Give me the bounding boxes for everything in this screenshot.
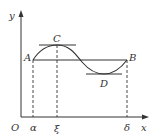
tick-xi-label: ξ [54,123,60,134]
y-axis-arrow-icon [19,10,24,17]
point-d-label: D [99,78,108,89]
y-axis-label: y [8,10,15,21]
function-diagram: y x O A B C D α ξ δ [0,0,157,137]
point-a-label: A [23,52,31,63]
tick-delta-label: δ [124,122,130,133]
tick-alpha-label: α [30,122,37,133]
point-c-label: C [53,33,61,44]
point-b-label: B [128,52,136,63]
origin-label: O [11,122,19,133]
x-axis-arrow-icon [142,115,149,120]
x-axis-label: x [141,122,147,133]
